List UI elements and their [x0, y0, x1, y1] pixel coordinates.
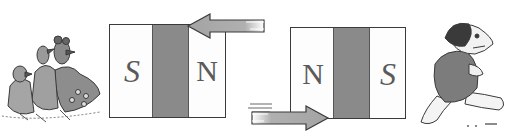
arrow-right-icon: [250, 104, 330, 132]
left-magnet-center-band: [152, 25, 189, 117]
running-dog-illustration: [415, 14, 514, 138]
right-magnet-center-band: [333, 28, 370, 118]
left-magnet-north-pole-label: N: [187, 56, 227, 86]
right-magnet-south-pole-label: S: [368, 59, 408, 89]
right-magnet-north-pole-label: N: [293, 59, 333, 89]
magnet-diagram: S N N S: [0, 0, 514, 138]
left-magnet-south-pole-label: S: [112, 56, 152, 86]
fleeing-birds-illustration: [0, 30, 105, 130]
arrow-left-icon: [186, 12, 266, 40]
